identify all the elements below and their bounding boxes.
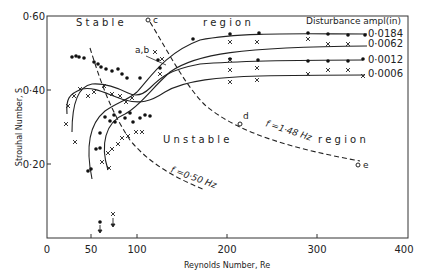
y-axis-label: Strouhal Number, S — [15, 88, 24, 166]
fitted-curves — [67, 34, 367, 179]
stable-label: S t a b l e — [76, 17, 124, 28]
x-tick: 200 — [217, 244, 236, 255]
unstable-region-label: r e g i o n — [318, 134, 366, 145]
label-d: d — [243, 111, 249, 121]
stable-region-label: r e g i o n — [203, 17, 251, 28]
legend-item: 0·0062 — [368, 38, 403, 49]
point-c — [146, 18, 150, 22]
y-tick-labels: 0·20 0·40 0·60 — [23, 11, 45, 170]
axis-ticks — [47, 90, 317, 238]
y-tick: 0·20 — [23, 159, 45, 170]
plot-frame — [47, 16, 408, 238]
y-tick: 0·40 — [23, 85, 45, 96]
label-c: c — [153, 15, 158, 25]
strouhal-chart: 0 50 100 200 300 400 0·20 0·40 0·60 Reyn… — [0, 0, 422, 278]
point-d — [238, 122, 242, 126]
curve-0-0062 — [104, 46, 367, 170]
x-tick: 300 — [307, 244, 326, 255]
unstable-label: U n s t a b l e — [163, 134, 229, 145]
x-tick: 0 — [44, 244, 50, 255]
x-tick: 50 — [85, 244, 98, 255]
y-tick: 0·60 — [23, 11, 45, 22]
x-tick: 100 — [127, 244, 146, 255]
downward-arrows — [98, 218, 115, 233]
label-ab: a,b — [135, 45, 149, 55]
label-e: e — [363, 160, 369, 170]
curve-0-0184 — [89, 34, 367, 179]
x-axis-label: Reynolds Number, Re — [184, 261, 270, 270]
legend-item: 0·0012 — [368, 54, 403, 65]
x-tick: 400 — [394, 244, 413, 255]
legend-item: 0·0006 — [368, 68, 403, 79]
x-tick-labels: 0 50 100 200 300 400 — [44, 244, 414, 255]
legend-title: Disturbance ampl(in) — [306, 16, 401, 26]
f148-label: f =1·48 Hz — [264, 118, 313, 142]
point-e — [356, 163, 360, 167]
